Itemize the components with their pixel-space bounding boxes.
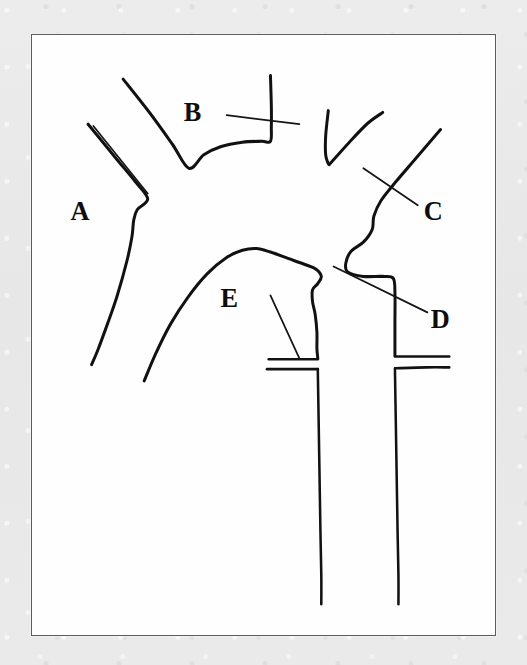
figure-frame: ABCDE — [31, 34, 496, 636]
figure-label-c: C — [424, 195, 443, 225]
vessel-stroke-descending-right-wall — [395, 369, 399, 604]
vessel-stroke-inner-arch — [144, 248, 321, 380]
leader-line-d — [334, 266, 428, 312]
label-group: ABCDE — [71, 96, 450, 334]
anatomical-line-diagram: ABCDE — [32, 35, 494, 634]
leader-line-e — [270, 295, 299, 358]
vessel-stroke-right-horizontal-branch-lower — [395, 367, 449, 368]
leader-line-group — [93, 115, 427, 358]
figure-label-a: A — [71, 195, 91, 225]
figure-label-b: B — [184, 96, 202, 126]
leader-line-a — [93, 126, 147, 194]
leader-line-c — [363, 168, 417, 205]
vessel-stroke-outer-left-vessel — [88, 124, 148, 365]
figure-label-e: E — [220, 283, 238, 313]
vessel-stroke-descending-left-wall — [318, 369, 322, 604]
leader-line-b — [227, 115, 300, 124]
vessel-stroke-group — [88, 76, 449, 605]
vessel-stroke-left-branch-v-right — [329, 112, 382, 164]
vessel-stroke-right-upper-branch — [345, 130, 440, 356]
figure-label-d: D — [431, 303, 450, 333]
vessel-stroke-left-branch-v-left — [325, 111, 328, 164]
